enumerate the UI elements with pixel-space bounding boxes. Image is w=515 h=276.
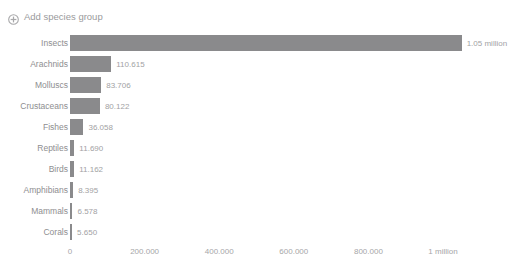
bar-row: Amphibians8.395 (0, 180, 515, 201)
bar-category-label: Molluscs (35, 75, 68, 96)
bar-value-label: 11.162 (79, 159, 103, 180)
bar[interactable] (70, 203, 72, 219)
bar-category-label: Birds (49, 159, 68, 180)
bar-row: Arachnids110.615 (0, 54, 515, 75)
bar[interactable] (70, 98, 100, 114)
bar[interactable] (70, 119, 83, 135)
bar-row: Molluscs83.706 (0, 75, 515, 96)
bar[interactable] (70, 77, 101, 93)
bar-row: Birds11.162 (0, 159, 515, 180)
x-axis-line (70, 243, 445, 244)
bar-value-label: 11.690 (79, 138, 103, 159)
x-axis-tick-label: 200.000 (130, 247, 159, 256)
bar-category-label: Reptiles (37, 138, 68, 159)
x-axis-tick-label: 800.000 (354, 247, 383, 256)
bar[interactable] (70, 182, 73, 198)
bar-category-label: Arachnids (30, 54, 68, 75)
bar-row: Mammals6.578 (0, 201, 515, 222)
bar-category-label: Mammals (31, 201, 68, 222)
bar-value-label: 36.058 (88, 117, 112, 138)
species-bar-chart: Insects1.05 millionArachnids110.615Mollu… (0, 33, 515, 276)
bar-category-label: Amphibians (24, 180, 68, 201)
x-axis-tick-label: 0 (68, 247, 72, 256)
bar[interactable] (70, 161, 74, 177)
bar[interactable] (70, 224, 72, 240)
bar-value-label: 83.706 (106, 75, 130, 96)
bar-value-label: 6.578 (77, 201, 97, 222)
bar-category-label: Fishes (43, 117, 68, 138)
bar-row: Fishes36.058 (0, 117, 515, 138)
x-axis-tick-label: 1 million (428, 247, 457, 256)
clipped-header-text: · · · · · · · · · · · · · (30, 0, 166, 4)
bar[interactable] (70, 140, 74, 156)
bar-value-label: 1.05 million (467, 33, 507, 54)
bar-category-label: Corals (43, 222, 68, 243)
bar-category-label: Crustaceans (20, 96, 68, 117)
bar-category-label: Insects (41, 33, 68, 54)
bar[interactable] (70, 35, 462, 51)
bar-value-label: 8.395 (78, 180, 98, 201)
x-axis-tick-label: 400.000 (205, 247, 234, 256)
bar-value-label: 80.122 (105, 96, 129, 117)
bar-value-label: 110.615 (116, 54, 144, 75)
clipped-header-strip: · · · · · · · · · · · · · (0, 0, 515, 7)
bar-value-label: 5.650 (77, 222, 97, 243)
add-species-group-button[interactable]: Add species group (8, 11, 103, 22)
bar[interactable] (70, 56, 111, 72)
circle-plus-icon (8, 11, 19, 22)
bar-row: Insects1.05 million (0, 33, 515, 54)
bar-row: Reptiles11.690 (0, 138, 515, 159)
bar-row: Crustaceans80.122 (0, 96, 515, 117)
bar-row: Corals5.650 (0, 222, 515, 243)
chart-plot-area: Insects1.05 millionArachnids110.615Mollu… (0, 33, 515, 243)
add-species-group-label: Add species group (24, 11, 103, 22)
x-axis-tick-label: 600.000 (279, 247, 308, 256)
